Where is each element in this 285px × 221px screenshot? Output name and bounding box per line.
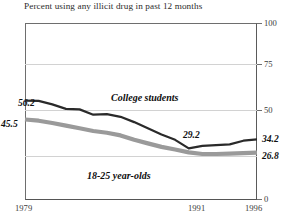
value-label-young-start: 45.5 bbox=[1, 119, 18, 129]
value-label-college-start: 56.2 bbox=[18, 98, 35, 108]
chart-container: Figure: Trends in illicit drug use Perce… bbox=[0, 0, 285, 221]
value-label-college-mid: 29.2 bbox=[183, 130, 200, 140]
series-label-18-25-year-olds: 18-25 year-olds bbox=[87, 170, 151, 181]
value-label-young-end: 26.8 bbox=[262, 151, 279, 161]
series-lines bbox=[0, 0, 285, 221]
value-label-college-end: 34.2 bbox=[262, 134, 279, 144]
series-label-college-students: College students bbox=[111, 92, 179, 103]
